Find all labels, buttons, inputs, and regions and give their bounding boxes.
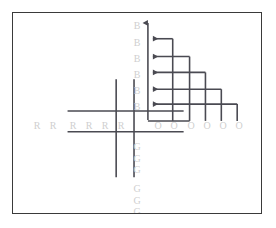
o-label: O: [152, 121, 164, 131]
o-label: O: [217, 121, 229, 131]
b-label: B: [131, 70, 143, 80]
o-label: O: [233, 121, 245, 131]
g-label: G: [131, 154, 143, 164]
b-label: B: [131, 54, 143, 64]
figure-frame: B B B B B B G G G G G G R R R R R R O O …: [12, 12, 262, 214]
r-label: R: [99, 121, 111, 131]
g-label: G: [131, 207, 143, 214]
staircase-step-1: [153, 39, 173, 121]
staircase-step-5: [153, 104, 237, 121]
g-label: G: [131, 165, 143, 175]
staircase-step-4: [153, 89, 221, 121]
b-label: B: [131, 102, 143, 112]
g-label: G: [131, 142, 143, 152]
r-label: R: [67, 121, 79, 131]
r-label: R: [47, 121, 59, 131]
o-label: O: [168, 121, 180, 131]
staircase-group: [153, 39, 237, 121]
g-label: G: [131, 184, 143, 194]
b-label: B: [131, 38, 143, 48]
r-label: R: [83, 121, 95, 131]
o-label: O: [185, 121, 197, 131]
b-label: B: [131, 86, 143, 96]
b-label: B: [131, 21, 143, 31]
staircase-step-3: [153, 72, 206, 121]
o-label: O: [201, 121, 213, 131]
r-label: R: [31, 121, 43, 131]
g-label: G: [131, 196, 143, 206]
r-label: R: [115, 121, 127, 131]
